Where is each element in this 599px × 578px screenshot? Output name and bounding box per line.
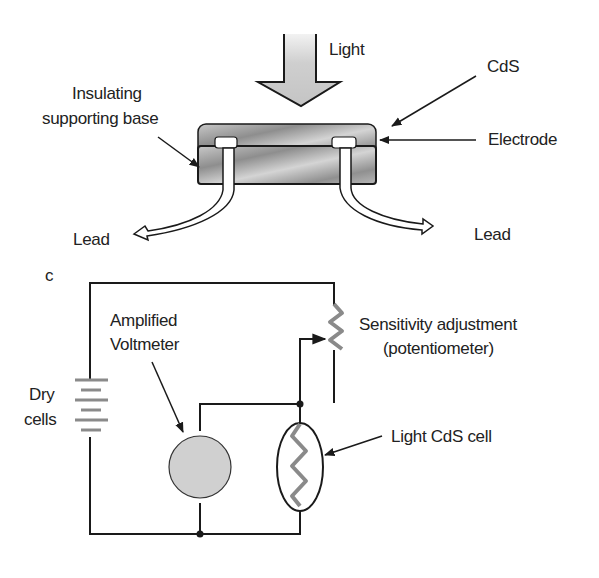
voltmeter-pointer <box>152 362 183 432</box>
sensitivity-label-line2: (potentiometer) <box>383 339 494 358</box>
voltmeter <box>169 436 231 498</box>
panel-letter: c <box>45 266 54 285</box>
lead-left-label: Lead <box>73 230 110 249</box>
lead-right-label: Lead <box>474 225 511 244</box>
cds-pointer <box>392 76 476 126</box>
cds-label: CdS <box>487 57 519 76</box>
potentiometer-resistor <box>330 304 342 349</box>
dry-cells-battery <box>75 380 108 430</box>
base-pointer <box>158 137 199 167</box>
base-label-line2: supporting base <box>42 109 158 128</box>
light-label: Light <box>329 40 365 59</box>
drycells-label-line2: cells <box>24 410 57 429</box>
light-cds-cell <box>277 423 323 511</box>
voltmeter-label-line1: Amplified <box>110 311 177 330</box>
sensitivity-label-line1: Sensitivity adjustment <box>359 315 517 334</box>
electrode-right <box>332 137 356 148</box>
electrode-label: Electrode <box>488 130 557 149</box>
junction-dot-bottom <box>197 531 204 538</box>
electrode-left <box>215 137 237 148</box>
cds-photocell-diagram: Light Insulating supporting base CdS Ele… <box>0 0 599 578</box>
cds-cell-label: Light CdS cell <box>391 427 492 446</box>
cds-cell-pointer <box>325 436 382 455</box>
base-label-line1: Insulating <box>72 84 142 103</box>
drycells-label-line1: Dry <box>29 385 55 404</box>
light-arrow <box>258 34 340 106</box>
voltmeter-label-line2: Voltmeter <box>110 335 180 354</box>
junction-dot-top <box>297 401 304 408</box>
